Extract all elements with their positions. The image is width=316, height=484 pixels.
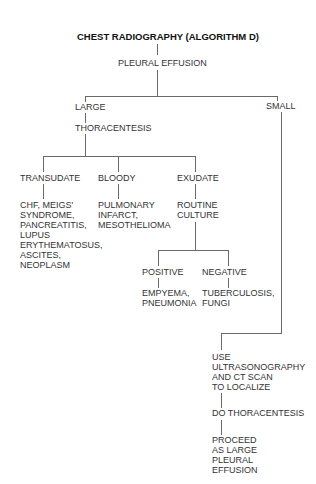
node-bloody: BLOODY bbox=[98, 173, 136, 183]
node-transudate-causes: CHF, MEIGS' SYNDROME, PANCREATITIS, LUPU… bbox=[20, 200, 103, 270]
node-bloody-causes: PULMONARY INFARCT, MESOTHELIOMA bbox=[98, 200, 171, 230]
connector-large-thoracentesis bbox=[85, 113, 86, 123]
node-small: SMALL bbox=[266, 101, 296, 111]
connector-small-left bbox=[221, 333, 282, 334]
node-localize: USE ULTRASONOGRAPHY AND CT SCAN TO LOCAL… bbox=[212, 352, 305, 392]
connector-thoracentesis-down bbox=[85, 134, 86, 156]
connector-negative-result bbox=[228, 278, 229, 288]
node-pleural-effusion: PLEURAL EFFUSION bbox=[118, 58, 207, 68]
node-negative-causes: TUBERCULOSIS, FUNGI bbox=[202, 288, 275, 308]
connector-root-down bbox=[157, 70, 158, 96]
node-transudate: TRANSUDATE bbox=[20, 173, 80, 183]
connector-thoracentesis-proceed bbox=[221, 420, 222, 435]
connector-title-root bbox=[157, 44, 158, 55]
connector-fluid-types bbox=[43, 156, 196, 157]
connector-positive-result bbox=[158, 278, 159, 288]
connector-culture-results bbox=[158, 250, 229, 251]
node-routine-culture: ROUTINE CULTURE bbox=[177, 200, 219, 220]
connector-to-localize bbox=[221, 333, 222, 350]
node-positive-causes: EMPYEMA, PNEUMONIA bbox=[142, 288, 197, 308]
connector-small-down bbox=[281, 112, 282, 333]
node-do-thoracentesis: DO THORACENTESIS bbox=[212, 408, 304, 418]
connector-to-exudate bbox=[195, 156, 196, 172]
connector-localize-thoracentesis bbox=[221, 393, 222, 408]
node-large: LARGE bbox=[75, 102, 106, 112]
connector-exudate-culture bbox=[195, 184, 196, 199]
diagram-title: CHEST RADIOGRAPHY (ALGORITHM D) bbox=[77, 31, 259, 42]
connector-bloody-result bbox=[118, 184, 119, 199]
node-proceed: PROCEED AS LARGE PLEURAL EFFUSION bbox=[212, 435, 258, 475]
node-exudate: EXUDATE bbox=[177, 173, 219, 183]
connector-to-negative bbox=[228, 250, 229, 266]
connector-culture-down bbox=[195, 222, 196, 250]
connector-large-small bbox=[85, 96, 278, 97]
node-thoracentesis: THORACENTESIS bbox=[75, 123, 152, 133]
node-negative: NEGATIVE bbox=[202, 267, 247, 277]
connector-to-positive bbox=[158, 250, 159, 266]
connector-to-bloody bbox=[118, 156, 119, 172]
connector-transudate-result bbox=[43, 184, 44, 199]
connector-to-transudate bbox=[43, 156, 44, 172]
node-positive: POSITIVE bbox=[142, 267, 184, 277]
